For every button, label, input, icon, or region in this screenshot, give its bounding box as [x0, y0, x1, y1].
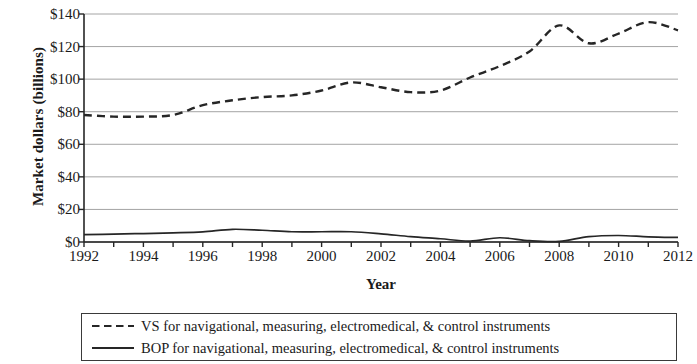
- legend-item-bop: BOP for navigational, measuring, electro…: [91, 337, 559, 359]
- x-axis-tick-label: 2010: [589, 248, 649, 265]
- y-axis-tick-label: $20: [26, 202, 80, 217]
- y-axis-tick-label: $140: [26, 7, 80, 22]
- y-axis-tick-label: $60: [26, 137, 80, 152]
- y-axis-tick-label: $40: [26, 169, 80, 184]
- y-axis-tick-label: $80: [26, 104, 80, 119]
- x-axis-tick-label: 2004: [410, 248, 470, 265]
- series-line-bop: [84, 229, 678, 241]
- x-axis-tick-label-group: 1992199419961998200020022004200620082010…: [84, 248, 678, 270]
- x-axis-tick-label: 2012: [648, 248, 697, 265]
- x-axis-tick-label: 2002: [351, 248, 411, 265]
- dashed-line-swatch-icon: [91, 320, 135, 332]
- x-axis-tick-label: 1992: [54, 248, 114, 265]
- y-axis-tick-label: $120: [26, 39, 80, 54]
- plot-area: [84, 14, 678, 242]
- legend-item-vs: VS for navigational, measuring, electrom…: [91, 315, 550, 337]
- legend: VS for navigational, measuring, electrom…: [81, 313, 677, 361]
- x-axis-tick-label: 1996: [173, 248, 233, 265]
- y-axis-tick-label: $100: [26, 72, 80, 87]
- legend-label-bop: BOP for navigational, measuring, electro…: [141, 341, 559, 356]
- x-axis-tick-label: 2006: [470, 248, 530, 265]
- x-axis-tick-label: 1994: [113, 248, 173, 265]
- plot-svg: [84, 14, 678, 242]
- x-axis-tick-label: 2008: [529, 248, 589, 265]
- solid-line-swatch-icon: [91, 342, 135, 354]
- x-axis-tick-label: 2000: [292, 248, 352, 265]
- series-line-vs: [84, 22, 678, 117]
- y-axis-tick-label-group: $0$20$40$60$80$100$120$140: [26, 0, 80, 260]
- x-axis-title: Year: [84, 276, 678, 293]
- x-axis-tick-label: 1998: [232, 248, 292, 265]
- legend-label-vs: VS for navigational, measuring, electrom…: [141, 319, 550, 334]
